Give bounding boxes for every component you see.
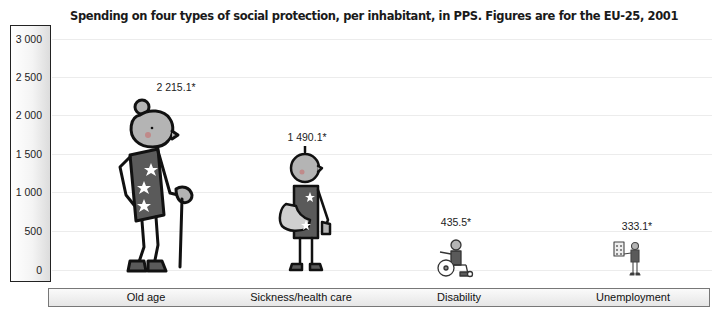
elderly-person-icon [100, 95, 200, 275]
y-axis: 3 000 2 500 2 000 1 500 1 000 500 0 [10, 25, 51, 282]
x-axis-category-bar: Old age Sickness/health care Disability … [48, 288, 710, 307]
job-seeker-icon [612, 240, 648, 276]
category-sickness: Sickness/health care [250, 291, 352, 303]
gridline-3000 [52, 39, 712, 40]
category-disability: Disability [437, 291, 481, 303]
gridline-2500 [52, 77, 712, 78]
y-tick-3000: 3 000 [16, 33, 42, 45]
value-label-disability: 435.5* [441, 216, 471, 228]
value-label-sickness: 1 490.1* [287, 131, 326, 143]
y-tick-2500: 2 500 [16, 71, 42, 83]
category-unemployment: Unemployment [596, 291, 670, 303]
y-tick-1000: 1 000 [16, 186, 42, 198]
wheelchair-person-icon [434, 238, 478, 278]
category-old-age: Old age [127, 291, 166, 303]
value-label-unemployment: 333.1* [622, 220, 652, 232]
y-tick-0: 0 [36, 264, 42, 276]
value-label-old-age: 2 215.1* [156, 81, 195, 93]
chart-title: Spending on four types of social protect… [70, 8, 668, 23]
child-with-sling-icon [272, 146, 342, 276]
y-tick-2000: 2 000 [16, 109, 42, 121]
y-tick-500: 500 [24, 225, 42, 237]
y-tick-1500: 1 500 [16, 148, 42, 160]
